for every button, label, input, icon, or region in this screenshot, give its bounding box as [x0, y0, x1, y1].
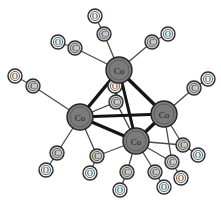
cobalt-atom[interactable]: Co: [151, 101, 177, 127]
carbon-atom-layer: CCCCCCCCCCCC: [26, 27, 201, 179]
carbon-atom[interactable]: C: [120, 165, 134, 179]
cobalt-atom[interactable]: Co: [123, 128, 149, 154]
oxygen-atom[interactable]: O: [174, 171, 188, 185]
carbon-atom[interactable]: C: [148, 165, 162, 179]
oxygen-atom[interactable]: O: [157, 180, 171, 194]
oxygen-atom[interactable]: O: [51, 35, 65, 49]
carbon-atom[interactable]: C: [187, 81, 201, 95]
carbon-atom[interactable]: C: [26, 79, 40, 93]
oxygen-atom[interactable]: O: [201, 72, 215, 86]
carbon-atom[interactable]: C: [50, 146, 64, 160]
cobalt-atom[interactable]: Co: [67, 104, 93, 130]
carbon-atom[interactable]: C: [109, 95, 123, 109]
molecule-canvas: OOOOOOOOOOOO CCCCCCCCCCCC CoCoCoCo: [0, 0, 221, 202]
cobalt-atom[interactable]: Co: [106, 57, 132, 83]
carbon-atom[interactable]: C: [68, 41, 82, 55]
oxygen-atom[interactable]: O: [83, 166, 97, 180]
oxygen-atom[interactable]: O: [39, 163, 53, 177]
carbon-atom[interactable]: C: [90, 149, 104, 163]
carbon-atom[interactable]: C: [165, 155, 179, 169]
oxygen-atom[interactable]: O: [8, 69, 22, 83]
oxygen-atom[interactable]: O: [113, 183, 127, 197]
carbon-atom[interactable]: C: [97, 27, 111, 41]
oxygen-atom[interactable]: O: [161, 27, 175, 41]
carbon-atom[interactable]: C: [145, 35, 159, 49]
molecule-diagram: OOOOOOOOOOOO CCCCCCCCCCCC CoCoCoCo: [0, 0, 221, 202]
carbon-atom[interactable]: C: [176, 138, 190, 152]
oxygen-atom[interactable]: O: [88, 9, 102, 23]
oxygen-atom[interactable]: O: [191, 148, 205, 162]
